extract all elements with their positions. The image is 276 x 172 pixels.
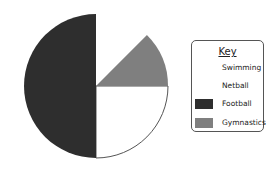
legend-item-football: Football: [195, 98, 263, 110]
legend-swatch-swimming: [195, 63, 213, 73]
legend-swatch-gymnastics: [195, 118, 213, 128]
legend-title: Key: [192, 46, 263, 57]
legend-item-netball: Netball: [195, 80, 263, 92]
legend-label: Football: [222, 98, 252, 110]
pie-slice-football: [24, 14, 96, 158]
legend-item-swimming: Swimming: [195, 62, 263, 74]
legend-swatch-netball: [195, 81, 213, 91]
legend-label: Netball: [222, 80, 249, 92]
pie-slices: [24, 14, 168, 158]
legend-label: Gymnastics: [222, 117, 266, 129]
legend-item-gymnastics: Gymnastics: [195, 117, 263, 129]
legend: Key Swimming Netball Football Gymnastics: [191, 40, 264, 132]
pie-slice-netball: [96, 86, 168, 158]
pie-chart: Key Swimming Netball Football Gymnastics: [0, 0, 276, 172]
legend-label: Swimming: [222, 62, 261, 74]
legend-swatch-football: [195, 99, 213, 109]
